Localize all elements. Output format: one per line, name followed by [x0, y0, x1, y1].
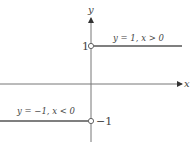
- x-axis-label: x: [184, 78, 190, 89]
- y-axis-label: y: [87, 4, 94, 15]
- tick-label-positive: 1: [82, 40, 89, 53]
- piece-negative-label: y = −1, x < 0: [16, 106, 76, 116]
- piece-positive-label: y = 1, x > 0: [112, 33, 164, 43]
- open-endpoint-negative: [88, 118, 93, 123]
- piecewise-graph: x y 1 y = 1, x > 0 −1 y = −1, x < 0: [0, 0, 192, 145]
- tick-label-negative: −1: [96, 115, 112, 128]
- open-endpoint-positive: [88, 43, 93, 48]
